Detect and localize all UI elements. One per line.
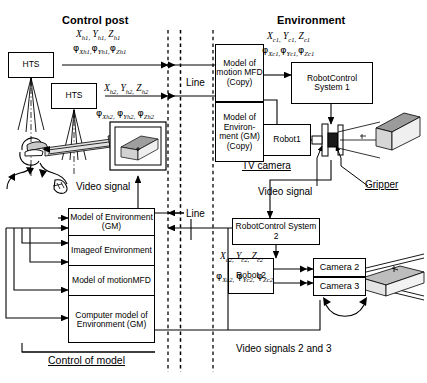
robot-control-system-1-label: RobotControl System 1 (292, 74, 372, 93)
control-post-model-stack: Model of Environment (GM) Imageof Enviro… (68, 208, 155, 343)
hts-box-1[interactable]: HTS (8, 52, 54, 78)
workpiece-beams-icon (362, 254, 424, 300)
stack-item-model-of-environment[interactable]: Model of Environment (GM) (69, 209, 154, 236)
header-control-post: Control post (62, 14, 129, 26)
stack-item-model-of-motion-mfd[interactable]: Model of motionMFD (69, 266, 154, 296)
header-environment: Environment (277, 14, 345, 26)
robot1-label: Robot1 (273, 135, 300, 145)
line-label-bottom: Line (184, 208, 207, 219)
stack-item-image-of-environment[interactable]: Imageof Environment (69, 236, 154, 266)
robot1-box[interactable]: Robot1 (263, 124, 311, 156)
robot-control-system-1-box[interactable]: RobotControl System 1 (291, 62, 373, 104)
model-of-motion-mfd-copy-box[interactable]: Model of motion MFD (Copy) (215, 44, 264, 102)
coords-h1-angles: φXh1,φYh1,φZh1 (73, 42, 126, 57)
diagram-vector-layer (0, 0, 427, 383)
camera2-box[interactable]: Camera 2 (313, 258, 366, 277)
coords-c1-angles: φXc1,φYc1,φZc1 (262, 44, 314, 59)
gripper-label: Gripper (365, 180, 398, 190)
stack-item-image-of-environment-label: Imageof Environment (71, 246, 152, 256)
coords-c2-angles: φXc2, φYc2, φZc2 (216, 270, 273, 285)
robot-control-system-2-box[interactable]: RobotControl System 2 (232, 218, 320, 245)
stack-item-model-of-environment-label: Model of Environment (GM) (69, 213, 154, 232)
monitor-icon (110, 122, 166, 170)
model-of-environment-copy-box[interactable]: Model of Environ- ment (GM) (Copy) (215, 102, 264, 162)
workpiece-3d-icon (376, 113, 420, 150)
control-of-model-label: Control of model (48, 355, 125, 365)
camera3-box[interactable]: Camera 3 (313, 277, 366, 296)
hts-box-2[interactable]: HTS (51, 83, 97, 109)
stack-item-computer-model-of-environment-label: Computer model of Environment (GM) (69, 311, 154, 330)
camera2-label: Camera 2 (320, 263, 360, 273)
robot-control-system-2-label: RobotControl System 2 (233, 222, 319, 241)
camera-pan-arc (326, 305, 364, 316)
camera-pan-arrowheads (323, 297, 367, 306)
video-signal-label-left: Video signal (76, 182, 130, 192)
hts-box-2-label: HTS (66, 91, 83, 101)
model-of-motion-mfd-copy-label: Model of motion MFD (Copy) (216, 59, 263, 88)
hts-box-1-label: HTS (23, 60, 40, 70)
coords-h2-position: Xh2, Yh2, Zh2 (104, 83, 148, 97)
stack-item-model-of-motion-mfd-label: Model of motionMFD (72, 276, 151, 286)
coords-h1-position: Xh1, Yh1, Zh1 (76, 29, 120, 43)
hts-line-arrowheads (161, 62, 176, 100)
coords-c2-position: Xc2, Yc2, Zc2 (220, 251, 263, 265)
line-label-top: Line (184, 77, 207, 88)
tv-camera-label: TV camera (242, 161, 291, 171)
camera3-label: Camera 3 (320, 282, 360, 292)
model-of-environment-copy-label: Model of Environ- ment (GM) (Copy) (216, 113, 263, 151)
video-signal-label-right: Video signal (258, 187, 312, 197)
robot2-camera-arrowheads (300, 266, 307, 287)
video-signals-23-label: Video signals 2 and 3 (236, 344, 331, 354)
diagram-canvas: HTS HTS Model of motion MFD (Copy) Model… (0, 0, 427, 383)
coords-h2-angles: φXh2, φYh2, φZh2 (96, 107, 154, 122)
stack-item-computer-model-of-environment[interactable]: Computer model of Environment (GM) (69, 296, 154, 344)
coords-c1-position: Xc1, Yc1, Zc1 (267, 31, 310, 45)
